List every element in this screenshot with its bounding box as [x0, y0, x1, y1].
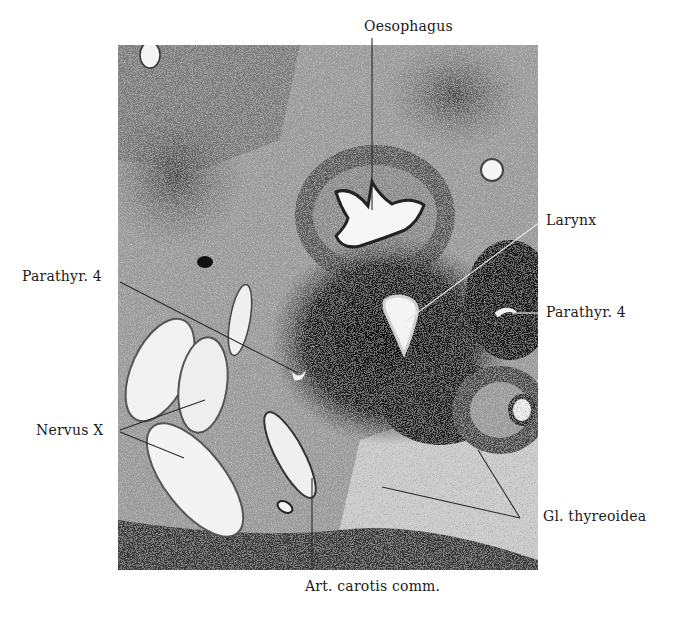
label-parathyr-4-right: Parathyr. 4 — [546, 304, 626, 320]
label-gl-thyreoidea: Gl. thyreoidea — [543, 508, 646, 524]
label-art-carotis-comm: Art. carotis comm. — [305, 578, 440, 594]
label-nervus-x: Nervus X — [36, 422, 103, 438]
label-larynx: Larynx — [546, 212, 596, 228]
histology-figure: Oesophagus Larynx Parathyr. 4 Parathyr. … — [0, 0, 684, 618]
label-oesophagus: Oesophagus — [364, 18, 453, 34]
label-parathyr-4-left: Parathyr. 4 — [22, 268, 102, 284]
